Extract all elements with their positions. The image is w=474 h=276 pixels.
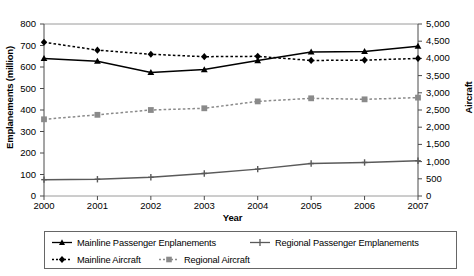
legend-swatch-mainline-passenger [51,237,73,248]
legend-item-mainline-passenger[interactable]: Mainline Passenger Enplanements [51,234,216,251]
legend-item-regional-aircraft[interactable]: Regional Aircraft [158,251,250,268]
legend-label-regional-aircraft: Regional Aircraft [184,255,250,265]
legend-label-mainline-aircraft: Mainline Aircraft [77,255,141,265]
legend-item-regional-passenger[interactable]: Regional Passenger Emplanements [249,234,419,251]
legend-label-mainline-passenger: Mainline Passenger Enplanements [77,238,216,248]
legend-item-mainline-aircraft[interactable]: Mainline Aircraft [51,251,141,268]
chart-legend: Mainline Passenger Enplanements Regional… [44,231,457,269]
legend-row-top: Mainline Passenger Enplanements Regional… [45,234,456,251]
legend-label-regional-passenger: Regional Passenger Emplanements [275,238,419,248]
legend-swatch-mainline-aircraft [51,254,73,265]
legend-swatch-regional-passenger [249,237,271,248]
legend-swatch-regional-aircraft [158,254,180,265]
legend-row-bottom: Mainline Aircraft Regional Aircraft [45,251,456,268]
